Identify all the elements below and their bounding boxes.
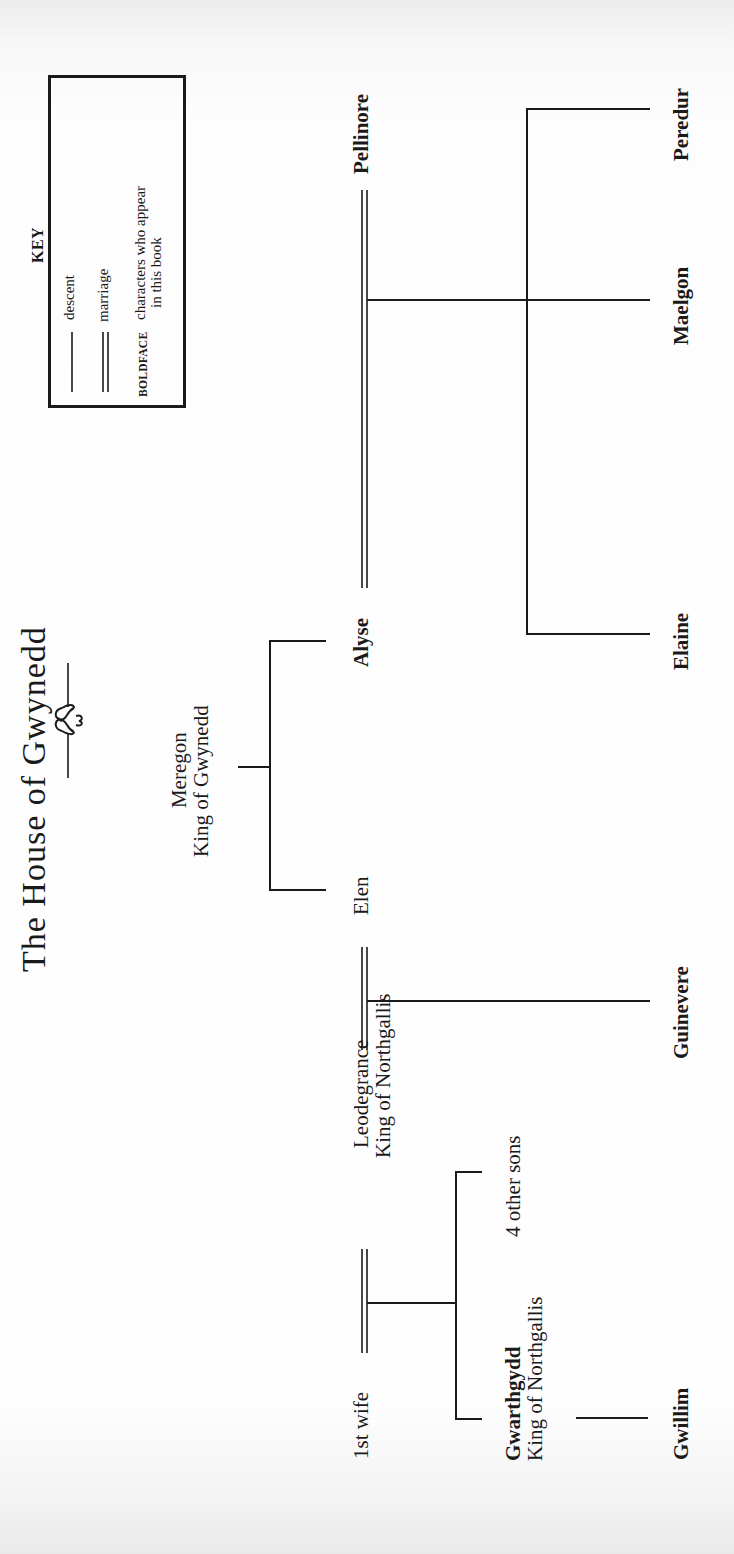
person-leodegrance-name: Leodegrance: [350, 994, 372, 1158]
person-meregon-name: Meregon: [168, 705, 190, 857]
person-other-sons: 4 other sons: [502, 1136, 524, 1238]
key-heading: KEY: [30, 227, 47, 263]
key-descent-label: descent: [62, 275, 78, 320]
person-alyse: Alyse: [350, 618, 372, 667]
person-guinevere: Guinevere: [670, 966, 692, 1059]
person-elaine: Elaine: [670, 613, 692, 670]
page-title: The House of Gwynedd: [16, 626, 52, 972]
key-boldface-label-line1: characters who appear: [133, 186, 149, 320]
title-ornament-icon: [56, 663, 82, 778]
key-boldface-label-line2: in this book: [149, 186, 165, 320]
person-meregon-title: King of Gwynedd: [190, 705, 212, 857]
person-leodegrance-title: King of Northgallis: [372, 994, 394, 1158]
key-marriage-label: marriage: [96, 269, 112, 322]
key-boldface-symbol: BOLDFACE: [137, 332, 149, 397]
person-gwarthgydd-title: King of Northgallis: [524, 1297, 546, 1461]
person-gwillim: Gwillim: [670, 1388, 692, 1460]
person-meregon: Meregon King of Gwynedd: [168, 705, 212, 857]
person-first-wife: 1st wife: [350, 1392, 372, 1459]
key-legend-box: [48, 75, 186, 408]
person-elen: Elen: [350, 877, 372, 915]
person-maelgon: Maelgon: [670, 267, 692, 345]
person-gwarthgydd-name: Gwarthgydd: [502, 1297, 524, 1461]
person-pellinore: Pellinore: [350, 94, 372, 174]
person-gwarthgydd: Gwarthgydd King of Northgallis: [502, 1297, 546, 1461]
person-peredur: Peredur: [670, 88, 692, 161]
key-boldface-label: characters who appear in this book: [133, 186, 165, 320]
person-leodegrance: Leodegrance King of Northgallis: [350, 994, 394, 1158]
